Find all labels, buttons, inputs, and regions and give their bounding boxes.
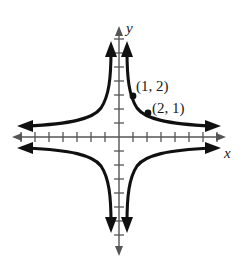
curve-branch-quadrant-3 (27, 148, 111, 223)
point-label-1-2: (1, 2) (136, 79, 169, 94)
axes-group (12, 26, 226, 256)
y-axis-arrow-up (115, 26, 123, 36)
y-axis-label: y (126, 21, 133, 36)
curve-arrow-q1-up (121, 41, 133, 57)
y-axis-arrow-down (115, 246, 123, 256)
curve-branch-quadrant-2 (27, 51, 111, 126)
point-label-2-1: (2, 1) (152, 101, 185, 116)
graph-figure: y x (1, 2) (2, 1) (0, 0, 242, 278)
coordinate-plane-svg (0, 0, 242, 278)
curve-arrow-q3-left (17, 142, 33, 154)
curve-arrow-q1-right (205, 120, 221, 132)
curve-arrow-q2-left (17, 120, 33, 132)
curve-arrow-q3-down (105, 217, 117, 233)
curve-branch-quadrant-4 (127, 148, 211, 223)
curve-arrow-q4-down (121, 217, 133, 233)
curve-arrow-q4-right (205, 142, 221, 154)
x-axis-label: x (224, 146, 231, 161)
curve-arrow-q2-up (105, 41, 117, 57)
point-marker-2-1[interactable] (145, 110, 152, 117)
